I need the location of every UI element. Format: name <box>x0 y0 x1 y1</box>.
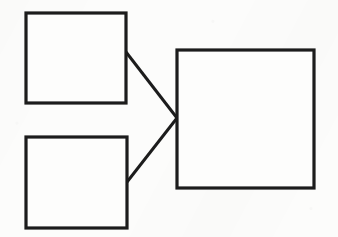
node-top-left[interactable] <box>26 13 126 103</box>
diagram-svg <box>0 0 338 237</box>
node-bottom-left[interactable] <box>26 137 127 228</box>
diagram-canvas <box>0 0 338 237</box>
node-right[interactable] <box>177 50 314 188</box>
edge-bottom-left-to-right <box>127 118 177 182</box>
edge-top-left-to-right <box>126 52 177 118</box>
